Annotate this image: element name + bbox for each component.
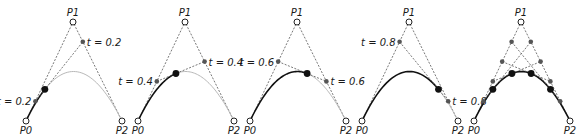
label-p2: P2 [340, 125, 352, 136]
intermediate-point-b [538, 59, 543, 64]
label-t-left: t = 0.4 [118, 76, 153, 87]
label-t-right: t = 0.2 [87, 37, 122, 48]
intermediate-point-b [548, 79, 553, 84]
control-point-p2 [567, 118, 573, 124]
label-p1: P1 [67, 7, 79, 18]
label-p1: P1 [291, 7, 303, 18]
label-t-left: t = 0.2 [0, 96, 31, 107]
curve-drawn [250, 72, 307, 122]
label-p1: P1 [403, 7, 415, 18]
curve-drawn [362, 72, 438, 122]
control-point-p0 [247, 118, 253, 124]
control-point-p2 [231, 118, 237, 124]
control-point-p1 [406, 19, 412, 25]
intermediate-point-a [509, 40, 514, 45]
label-p0: P0 [244, 125, 256, 136]
label-p2: P2 [452, 125, 464, 136]
curve-point [435, 86, 442, 93]
control-point-p0 [23, 118, 29, 124]
label-p2: P2 [116, 125, 128, 136]
intermediate-point-b [324, 79, 329, 84]
label-p1: P1 [515, 7, 527, 18]
label-p2: P2 [228, 125, 240, 136]
control-point-p1 [294, 19, 300, 25]
curve-point [528, 70, 535, 77]
label-t-right: t = 0.4 [209, 57, 244, 68]
intermediate-point-b [529, 40, 534, 45]
intermediate-point-b [81, 40, 86, 45]
label-p0: P0 [132, 125, 144, 136]
intermediate-point-a [276, 59, 281, 64]
label-p0: P0 [468, 125, 480, 136]
control-point-p0 [471, 118, 477, 124]
intermediate-point-b [558, 99, 563, 104]
bezier-diagram: t = 0.2t = 0.2P1P0P2t = 0.4t = 0.4P1P0P2… [0, 0, 581, 140]
curve-point [173, 70, 180, 77]
control-point-p0 [359, 118, 365, 124]
control-point-p1 [70, 19, 76, 25]
curve-full [474, 72, 570, 122]
intermediate-point-a [397, 40, 402, 45]
curve-point [304, 70, 311, 77]
curve-point [489, 86, 496, 93]
intermediate-point-a [481, 99, 486, 104]
label-t-right: t = 0.6 [330, 76, 365, 87]
label-t-left: t = 0.8 [361, 37, 396, 48]
intermediate-point-a [33, 99, 38, 104]
intermediate-line [278, 62, 326, 82]
curve-point [547, 86, 554, 93]
control-point-p2 [119, 118, 125, 124]
intermediate-line [157, 62, 205, 82]
curve-remaining [176, 72, 234, 122]
intermediate-point-a [491, 79, 496, 84]
curve-point [509, 70, 516, 77]
control-point-p1 [182, 19, 188, 25]
curve-point [41, 86, 48, 93]
intermediate-point-b [446, 99, 451, 104]
bezier-panels: t = 0.2t = 0.2P1P0P2t = 0.4t = 0.4P1P0P2… [0, 0, 581, 140]
label-p2: P2 [564, 125, 576, 136]
intermediate-point-a [500, 59, 505, 64]
intermediate-point-a [155, 79, 160, 84]
intermediate-point-b [202, 59, 207, 64]
control-point-p1 [518, 19, 524, 25]
label-p0: P0 [356, 125, 368, 136]
control-point-p2 [343, 118, 349, 124]
control-point-p2 [455, 118, 461, 124]
curve-remaining [45, 72, 122, 122]
label-p0: P0 [20, 125, 32, 136]
label-p1: P1 [179, 7, 191, 18]
label-t-left: t = 0.6 [240, 57, 275, 68]
control-point-p0 [135, 118, 141, 124]
